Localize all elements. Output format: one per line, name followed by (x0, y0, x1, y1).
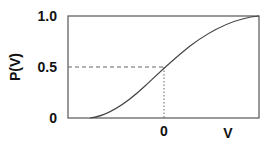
y-tick-1: 1.0 (38, 8, 58, 24)
y-axis-label: P(V) (7, 53, 23, 81)
chart: 1.0 0.5 0 0 V P(V) (0, 0, 272, 143)
x-axis-label: V (223, 125, 233, 141)
y-tick-0: 0 (49, 110, 57, 126)
cdf-curve (90, 16, 259, 118)
y-tick-05: 0.5 (38, 59, 58, 75)
x-tick-0: 0 (160, 123, 168, 139)
